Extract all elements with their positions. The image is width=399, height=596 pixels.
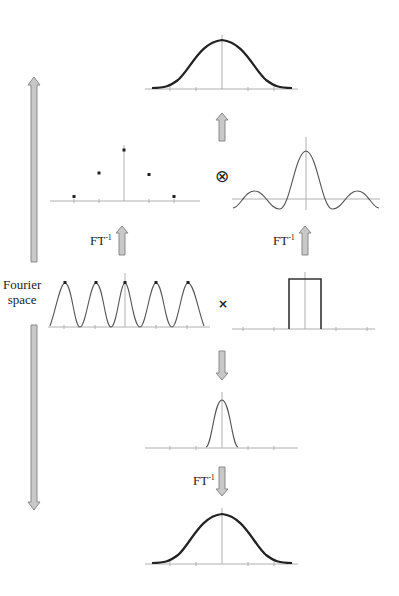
ft-inverse-label: FT-1 — [273, 233, 295, 249]
bottom-gaussian-plot — [145, 508, 298, 566]
multiply-symbol: × — [218, 297, 228, 311]
narrow-gaussian-plot — [145, 392, 298, 450]
ft-inverse-label: FT-1 — [193, 473, 215, 489]
comb-cosine-plot — [48, 273, 210, 329]
down-arrow-icon — [216, 351, 228, 380]
sinc-plot — [232, 137, 380, 210]
up-arrow-icon — [216, 113, 228, 141]
fourier-space-line1: Fourier — [3, 277, 41, 292]
up-arrow-icon — [116, 226, 128, 255]
top-gaussian-plot — [145, 35, 298, 91]
diagram-canvas: .ax { stroke: #b0b0b0; stroke-width: 1; … — [0, 0, 399, 596]
down-arrow-icon — [216, 467, 228, 496]
rect-plot — [232, 272, 375, 331]
sampled-points-plot — [50, 145, 200, 203]
up-arrow-icon — [299, 226, 311, 255]
convolution-symbol: ⊗ — [215, 166, 229, 186]
fourier-space-label: Fourier space — [3, 277, 41, 307]
fourier-space-line2: space — [3, 292, 41, 307]
ft-inverse-label: FT-1 — [90, 233, 112, 249]
